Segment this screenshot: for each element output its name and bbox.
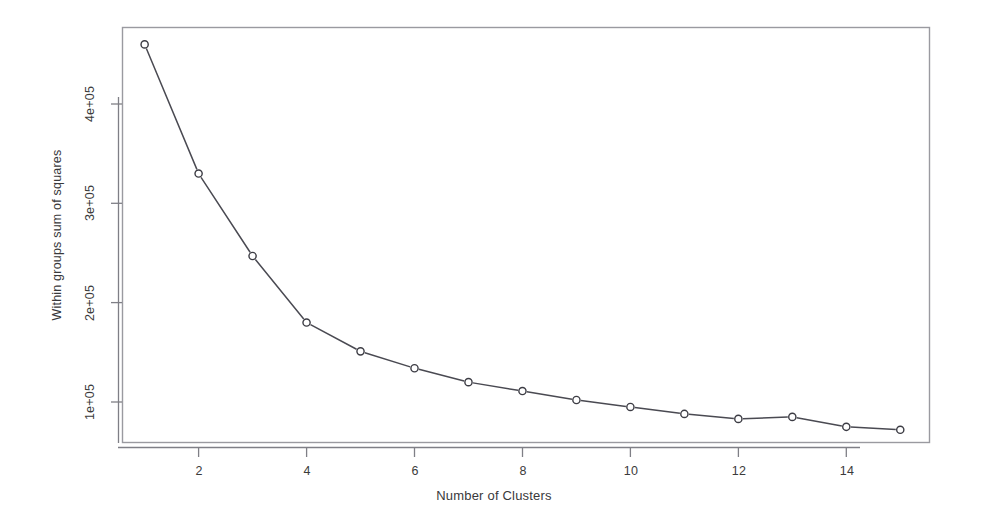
x-tick-label-2: 2 — [180, 464, 218, 478]
data-point-marker — [789, 413, 796, 420]
y-tick-label-2e05: 2e+05 — [83, 280, 97, 326]
data-series-group — [141, 41, 904, 434]
data-point-marker — [735, 415, 742, 422]
data-point-marker — [627, 403, 634, 410]
data-point-marker — [465, 379, 472, 386]
x-axis-title: Number of Clusters — [389, 488, 599, 503]
y-tick-label-4e05: 4e+05 — [83, 81, 97, 127]
x-axis-group — [118, 447, 860, 457]
data-point-marker — [897, 426, 904, 433]
y-tick-label-3e05: 3e+05 — [83, 180, 97, 226]
chart-canvas: 4e+05 3e+05 2e+05 1e+05 2 4 6 8 10 12 14… — [0, 0, 986, 532]
series-line — [146, 49, 895, 430]
x-tick-label-10: 10 — [612, 464, 650, 478]
data-point-marker — [249, 252, 256, 259]
plot-box-frame — [123, 28, 930, 443]
x-tick-label-4: 4 — [288, 464, 326, 478]
data-point-marker — [357, 348, 364, 355]
data-point-marker — [195, 170, 202, 177]
y-axis-title: Within groups sum of squares — [50, 125, 64, 345]
data-point-marker — [573, 396, 580, 403]
data-point-marker — [303, 319, 310, 326]
x-tick-label-14: 14 — [828, 464, 866, 478]
y-tick-label-1e05: 1e+05 — [83, 379, 97, 425]
data-point-marker — [141, 41, 148, 48]
data-point-marker — [519, 387, 526, 394]
data-point-marker — [411, 365, 418, 372]
y-axis-group — [111, 97, 122, 443]
x-tick-label-12: 12 — [720, 464, 758, 478]
series-markers — [141, 41, 904, 434]
data-point-marker — [843, 423, 850, 430]
data-point-marker — [681, 410, 688, 417]
elbow-plot-figure — [0, 0, 986, 532]
x-tick-label-8: 8 — [504, 464, 542, 478]
x-tick-label-6: 6 — [396, 464, 434, 478]
